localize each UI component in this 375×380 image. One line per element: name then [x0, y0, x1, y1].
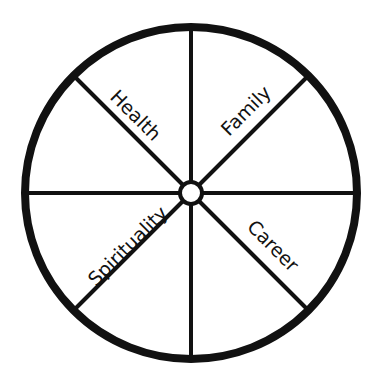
wheel-of-life-diagram: Health Family Career Spirituality: [0, 0, 375, 380]
wheel-hub: [180, 182, 202, 204]
wheel-svg: Health Family Career Spirituality: [0, 0, 375, 380]
label-family: Family: [216, 81, 275, 140]
label-spirituality: Spirituality: [83, 202, 171, 290]
label-career: Career: [243, 215, 304, 276]
